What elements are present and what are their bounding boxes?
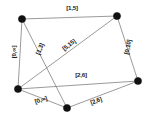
- edge-top: [22, 16, 117, 19]
- edge-label-left: [0,∞]: [11, 46, 17, 59]
- edge-label-middle: [2,6]: [75, 72, 87, 78]
- node-left-bottom: [14, 85, 21, 92]
- edge-left: [18, 19, 22, 89]
- nodes-group: [14, 12, 141, 111]
- node-bottom: [63, 104, 70, 111]
- node-top-right: [113, 12, 120, 19]
- node-top-left: [18, 15, 25, 22]
- diagram-canvas: [1,5][0,∞][1,3][5,15][0,10][2,6][0,∞][2,…: [0, 0, 153, 117]
- edge-label-top: [1,5]: [66, 5, 78, 11]
- graph-svg: [0, 0, 153, 117]
- edges-group: [18, 16, 138, 108]
- node-right: [134, 77, 141, 84]
